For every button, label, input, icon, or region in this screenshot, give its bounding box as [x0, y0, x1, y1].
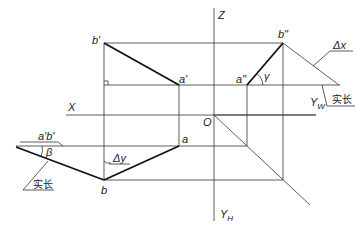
z-axis-label: Z	[217, 9, 226, 21]
b-prime-label: b'	[92, 34, 101, 46]
ab-prime-label: a'b'	[38, 130, 55, 142]
delta-y-mark	[104, 161, 111, 163]
yh-label: YH	[220, 208, 233, 223]
gamma-label: γ	[264, 70, 271, 82]
true-length-w	[283, 43, 339, 85]
a-label: a	[182, 133, 188, 145]
true-length-w-label: 实长	[332, 93, 352, 105]
leader-delta-x	[313, 51, 353, 66]
true-length-h	[16, 147, 104, 180]
beta-arc	[41, 146, 42, 156]
right-angle-mark	[104, 81, 108, 85]
diagonal-45	[214, 115, 310, 205]
delta-y-label: Δy	[112, 152, 127, 164]
a-prime-label: a'	[179, 73, 188, 85]
line-b-prime-a-prime	[104, 43, 179, 85]
true-length-h-label: 实长	[33, 178, 53, 190]
delta-x-label: Δx	[332, 39, 346, 51]
b-label: b	[101, 184, 107, 196]
leader-ab-prime	[20, 142, 63, 146]
b-dprime-label: b"	[278, 28, 289, 40]
beta-label: β	[45, 146, 53, 158]
a-dprime-label: a"	[236, 73, 247, 85]
gamma-arc	[256, 73, 263, 85]
origin-label: O	[203, 116, 212, 128]
yw-label: YW	[310, 96, 326, 111]
projection-diagram: Z X O b' a' a" b" a b a'b' γ β Δx Δy YW …	[0, 0, 356, 231]
x-axis-label: X	[67, 101, 76, 113]
